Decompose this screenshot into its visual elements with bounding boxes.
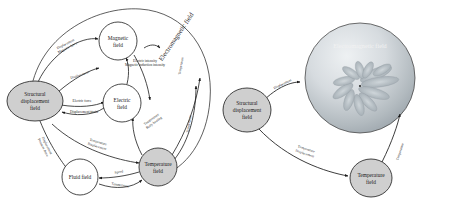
node-magnetic-field[interactable]: Magnetic field: [99, 22, 137, 60]
diagram-canvas: Displacement Magnetic force Displacement…: [0, 0, 451, 214]
node-electric-field[interactable]: Electric field: [103, 84, 141, 122]
edge-label-e3-line2: Magnetic induction intensity: [125, 63, 165, 67]
node-label-line1: Fluid field: [69, 174, 92, 180]
edge-label-e5-line1: Displacement/strain: [70, 110, 98, 114]
node-label-line2: field: [117, 104, 127, 110]
node-label-line1: Structural: [236, 100, 258, 106]
node-label-line2: field: [113, 42, 123, 48]
sphere-label: Electromagnetic field: [333, 42, 387, 49]
node-label-line1: Temperature: [144, 161, 172, 167]
node-label-line3: field: [242, 114, 252, 120]
node-label-line2: field: [366, 179, 376, 185]
node-label-line1: Electric: [114, 97, 131, 103]
node-structural-displacement-field[interactable]: Structural displacement field: [7, 81, 63, 121]
figure-root: Displacement Magnetic force Displacement…: [0, 0, 451, 214]
edge-label-e4-line1: Electric force: [73, 99, 92, 103]
node-label-line1: Magnetic: [108, 35, 129, 41]
node-temperature-field-2[interactable]: Temperature field: [350, 159, 392, 197]
node-label-line2: field: [153, 168, 163, 174]
node-label-line2: displacement: [21, 98, 50, 104]
node-structural-displacement-field-2[interactable]: Structural displacement field: [223, 88, 271, 132]
node-electromagnetic-field-sphere[interactable]: Electromagnetic field: [305, 23, 415, 133]
node-label-line2: displacement: [233, 107, 262, 113]
node-label-line1: Structural: [24, 91, 46, 97]
node-label-line3: field: [30, 105, 40, 111]
node-fluid-field[interactable]: Fluid field: [62, 159, 98, 195]
node-label-line1: Temperature: [357, 172, 385, 178]
node-temperature-field[interactable]: Temperature field: [139, 148, 177, 186]
